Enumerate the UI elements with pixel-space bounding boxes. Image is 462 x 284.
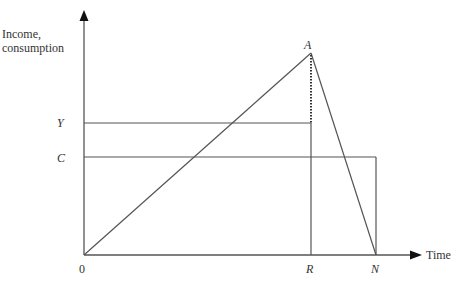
x-axis-label: Time (426, 248, 451, 262)
y-axis-label-line2: consumption (2, 41, 64, 55)
peak-label: A (304, 38, 311, 52)
y-axis-label: Income, consumption (2, 27, 64, 55)
income-level-label: Y (57, 116, 64, 130)
x-axis-arrow-icon (410, 251, 422, 260)
y-axis-label-line1: Income, (2, 27, 64, 41)
death-label: N (371, 262, 379, 276)
consumption-level-label: C (57, 151, 65, 165)
wealth-fall-line (311, 53, 376, 255)
origin-label: 0 (79, 262, 85, 276)
wealth-rise-line (84, 53, 311, 255)
y-axis-arrow-icon (80, 10, 89, 21)
diagram-canvas (0, 0, 462, 284)
retirement-label: R (306, 262, 313, 276)
